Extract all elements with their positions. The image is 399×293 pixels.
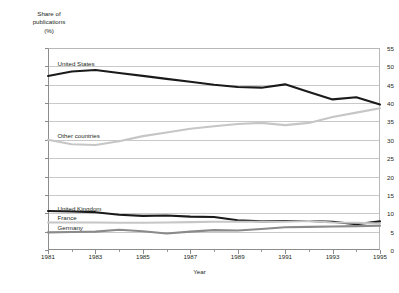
series-lines — [0, 0, 399, 293]
series-label: United Kingdom — [57, 205, 101, 212]
series-line — [48, 226, 380, 234]
series-label: France — [57, 214, 76, 221]
series-line — [48, 108, 380, 145]
chart-container: Share of publications (%) Year 051015202… — [0, 0, 399, 293]
series-label: Germany — [57, 224, 82, 231]
series-line — [48, 70, 380, 105]
series-line — [48, 221, 380, 224]
series-label: Other countries — [57, 132, 99, 139]
series-label: United States — [57, 60, 94, 67]
